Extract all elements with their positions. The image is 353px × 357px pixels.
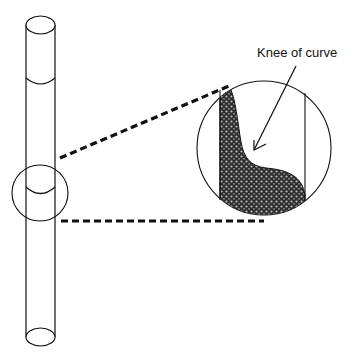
tube-band-arc [26,78,55,84]
diagram-canvas: Knee of curve [0,0,353,357]
tube-bottom-ellipse [26,328,55,346]
tube-inner-arc [26,187,55,194]
knee-of-curve-label: Knee of curve [257,45,337,60]
tube-top-ellipse [26,16,55,34]
tube [26,16,55,346]
magnified-view [197,81,331,232]
